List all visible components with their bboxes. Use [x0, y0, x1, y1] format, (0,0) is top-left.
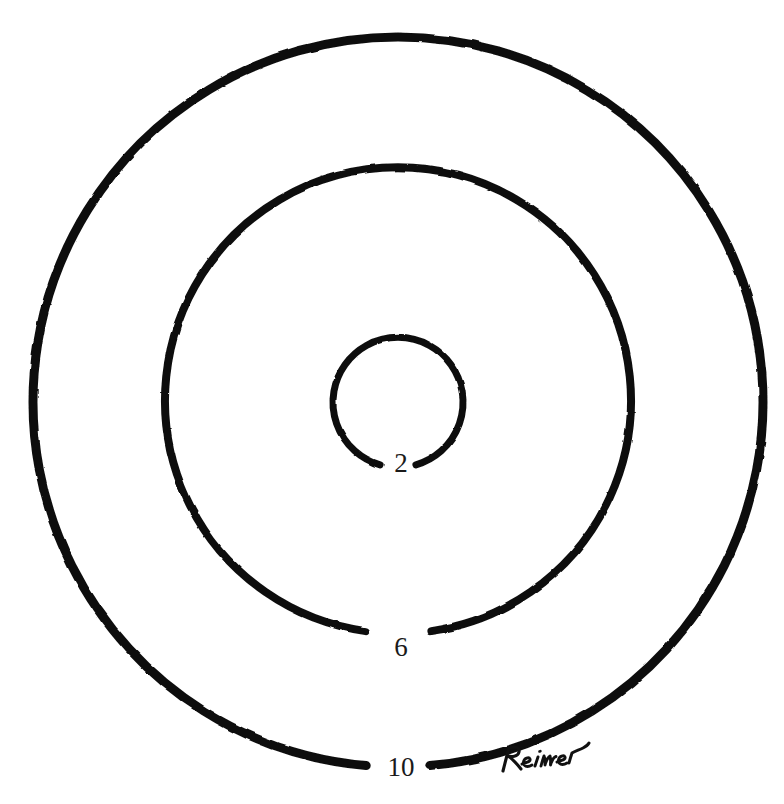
figure-background	[0, 0, 784, 804]
concentric-rings-svg	[0, 0, 784, 804]
signature-mark	[497, 735, 597, 780]
ring-label-inner: 2	[366, 450, 436, 477]
ring-label-middle: 6	[366, 634, 436, 661]
figure-root: 2 6 10	[0, 0, 784, 804]
signature	[497, 735, 597, 780]
ring-label-outer: 10	[361, 754, 441, 781]
